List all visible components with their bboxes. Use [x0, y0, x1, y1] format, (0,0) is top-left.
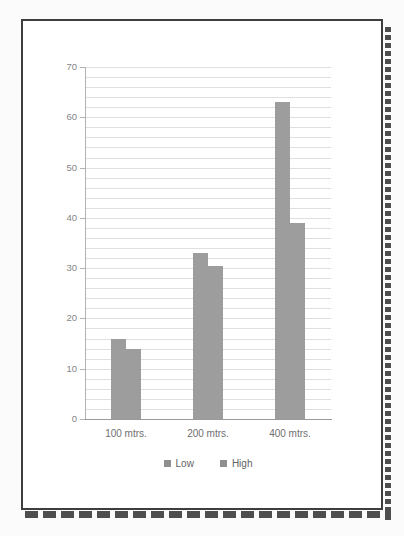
x-category-label: 400 mtrs. — [249, 427, 331, 440]
y-tick-label: 0 — [47, 413, 77, 425]
bar-high-400-mtrs — [290, 223, 305, 419]
gridline — [85, 67, 331, 68]
y-tick-label: 60 — [47, 111, 77, 123]
gridline — [85, 107, 331, 108]
gridline — [85, 168, 331, 169]
scanned-page-canvas: 010203040506070 100 mtrs.200 mtrs.400 mt… — [0, 0, 404, 536]
legend-marker-icon — [164, 460, 171, 467]
bar-high-100-mtrs — [126, 349, 141, 419]
gridline — [85, 178, 331, 179]
bar-high-200-mtrs — [208, 266, 223, 419]
gridline — [85, 198, 331, 199]
gridline — [85, 87, 331, 88]
y-tick-label: 40 — [47, 212, 77, 224]
y-axis-tick — [80, 268, 85, 269]
legend-label: Low — [176, 458, 194, 469]
x-category-label: 200 mtrs. — [167, 427, 249, 440]
document-page: 010203040506070 100 mtrs.200 mtrs.400 mt… — [21, 19, 383, 510]
gridline — [85, 218, 331, 219]
y-axis-tick — [80, 419, 85, 420]
y-axis-tick — [80, 117, 85, 118]
plot-area — [85, 67, 331, 419]
stitched-border-right — [385, 27, 391, 523]
gridline — [85, 77, 331, 78]
chart-legend: LowHigh — [85, 458, 331, 469]
legend-label: High — [232, 458, 253, 469]
gridline — [85, 137, 331, 138]
gridline — [85, 127, 331, 128]
y-tick-label: 20 — [47, 312, 77, 324]
y-tick-label: 10 — [47, 363, 77, 375]
bar-low-400-mtrs — [275, 102, 290, 419]
y-axis-tick — [80, 318, 85, 319]
y-tick-label: 70 — [47, 61, 77, 73]
legend-item-high: High — [220, 458, 253, 469]
gridline — [85, 188, 331, 189]
x-axis-line — [84, 419, 332, 420]
x-category-label: 100 mtrs. — [85, 427, 167, 440]
legend-marker-icon — [220, 460, 227, 467]
gridline — [85, 97, 331, 98]
bar-low-200-mtrs — [193, 253, 208, 419]
y-axis-tick — [80, 369, 85, 370]
bar-chart: 010203040506070 100 mtrs.200 mtrs.400 mt… — [23, 21, 381, 508]
y-axis-tick — [80, 67, 85, 68]
y-tick-label: 30 — [47, 262, 77, 274]
gridline — [85, 117, 331, 118]
legend-item-low: Low — [164, 458, 194, 469]
y-axis-tick — [80, 168, 85, 169]
gridline — [85, 158, 331, 159]
y-tick-label: 50 — [47, 162, 77, 174]
y-axis-tick — [80, 218, 85, 219]
gridline — [85, 147, 331, 148]
bar-low-100-mtrs — [111, 339, 126, 419]
gridline — [85, 208, 331, 209]
y-axis-line — [85, 67, 86, 419]
stitched-border-bottom — [25, 511, 391, 518]
